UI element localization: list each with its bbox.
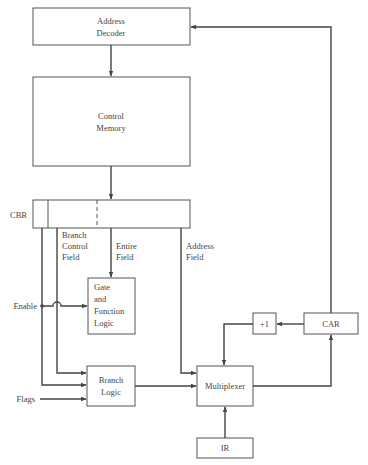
svg-text:Field: Field <box>186 252 204 262</box>
svg-text:Logic: Logic <box>94 318 114 328</box>
svg-text:Field: Field <box>62 252 80 262</box>
svg-text:Multiplexer: Multiplexer <box>205 381 245 391</box>
address-decoder-label-2: Decoder <box>97 28 126 38</box>
enable-signal-label: Enable <box>13 301 37 311</box>
svg-text:Entire: Entire <box>116 241 137 251</box>
ir-block: IR <box>197 438 253 458</box>
svg-text:+1: +1 <box>260 319 269 329</box>
car-to-decoder-arrow <box>191 27 331 313</box>
svg-text:Function: Function <box>94 306 125 316</box>
address-field-label: Address Field <box>186 241 214 262</box>
mux-to-car-arrow <box>253 335 331 386</box>
svg-text:Branch: Branch <box>99 375 124 385</box>
car-register-block: CAR <box>304 313 358 334</box>
cbr-register <box>33 200 190 228</box>
gate-function-logic-block: Gate and Function Logic <box>88 278 135 334</box>
control-memory-label-2: Memory <box>96 123 126 133</box>
enable-to-gate-arrow <box>42 302 87 306</box>
svg-text:Address: Address <box>186 241 214 251</box>
svg-text:IR: IR <box>221 443 230 453</box>
svg-text:Control: Control <box>62 241 89 251</box>
control-memory-label-1: Control <box>98 111 125 121</box>
branch-control-field-label: Branch Control Field <box>62 230 89 262</box>
svg-text:Logic: Logic <box>101 387 121 397</box>
cbr-label: CBR <box>10 210 27 220</box>
svg-text:Branch: Branch <box>62 230 87 240</box>
svg-text:and: and <box>94 294 107 304</box>
svg-text:Field: Field <box>116 252 134 262</box>
incrementer-block: +1 <box>253 313 276 334</box>
branch-logic-block: Branch Logic <box>87 366 135 406</box>
svg-text:CAR: CAR <box>322 319 340 329</box>
address-decoder-label-1: Address <box>97 16 125 26</box>
control-memory-block: Control Memory <box>33 77 190 166</box>
flags-signal-label: Flags <box>17 394 35 404</box>
address-decoder-block: Address Decoder <box>33 8 190 45</box>
control-unit-diagram: Address Decoder Control Memory CBR Branc… <box>0 0 368 465</box>
multiplexer-block: Multiplexer <box>197 366 253 406</box>
incrementer-to-mux-arrow <box>224 324 253 365</box>
entire-field-label: Entire Field <box>116 241 137 262</box>
svg-text:Gate: Gate <box>94 282 110 292</box>
